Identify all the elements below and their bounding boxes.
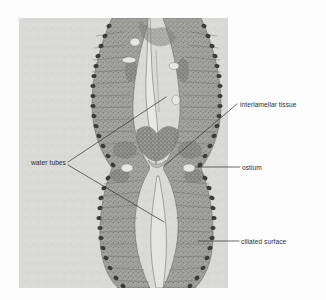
label-water-tubes: water tubes [30, 159, 67, 166]
label-ciliated-surface: ciliated surface [241, 238, 287, 245]
micrograph-panel [19, 18, 228, 289]
label-interlamellar-tissue: interlamellar tissue [240, 101, 297, 108]
figure-canvas: water tubes interlamellar tissue ostium … [0, 0, 326, 300]
label-ostium: ostium [242, 164, 262, 171]
figure-root: water tubes interlamellar tissue ostium … [0, 0, 326, 300]
